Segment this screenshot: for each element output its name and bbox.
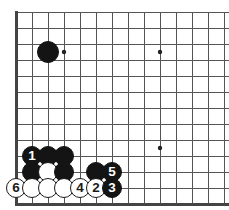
- move-number-label: 1: [28, 149, 36, 163]
- black-stone: [37, 41, 59, 63]
- star-point: [158, 146, 162, 150]
- move-number-label: 4: [76, 181, 84, 195]
- star-point: [158, 50, 162, 54]
- star-point: [62, 50, 66, 54]
- go-board-diagram: 156423: [0, 0, 229, 210]
- move-number-label: 5: [108, 165, 116, 179]
- move-number-label: 2: [92, 181, 100, 195]
- black-stone-move-3: 3: [102, 178, 122, 198]
- move-number-label: 3: [108, 181, 116, 195]
- move-number-label: 6: [12, 181, 20, 195]
